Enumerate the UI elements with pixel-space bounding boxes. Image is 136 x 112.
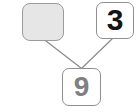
node-three[interactable]: 3 <box>96 2 134 39</box>
edge-three-to-nine <box>82 39 112 68</box>
node-nine-label: 9 <box>74 73 90 101</box>
edge-blank-to-nine <box>46 41 81 68</box>
node-nine[interactable]: 9 <box>62 68 101 106</box>
diagram-canvas: 3 9 <box>0 0 136 112</box>
node-blank[interactable] <box>22 3 64 41</box>
node-three-label: 3 <box>107 5 124 35</box>
